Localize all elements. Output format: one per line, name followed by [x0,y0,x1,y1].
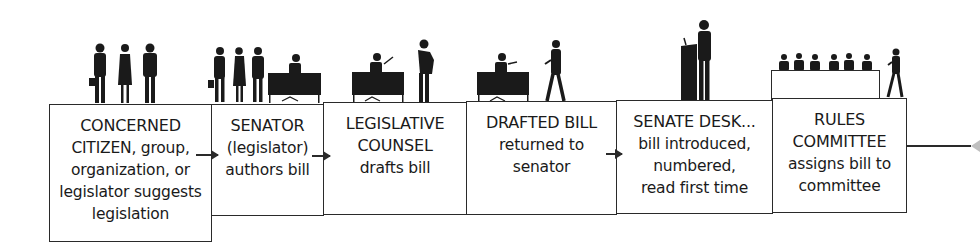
step-text-line: CITIZEN, group, [50,137,211,159]
step-text-line: COMMITTEE [773,131,906,153]
step-text-line: RULES [773,109,906,131]
step-senator: SENATOR (legislator) authors bill [211,104,324,216]
step-legislative-counsel: LEGISLATIVE COUNSEL drafts bill [323,102,467,215]
step-senate-desk: SENATE DESK... bill introduced, numbered… [616,100,773,214]
step-text-line: authors bill [212,159,323,181]
people-and-seated-senator-icon [208,47,321,103]
step-rules-committee: RULES COMMITTEE assigns bill to committe… [772,98,907,213]
step-text-line: legislator suggests [50,181,211,203]
step-text-line: SENATE DESK... [617,111,772,133]
arrow-drafted-to-senate-desk [606,153,622,155]
arrowhead-icon [971,140,980,152]
arrow-citizen-to-senator [196,154,218,156]
step-text-line: assigns bill to [773,153,906,175]
step-text-line: DRAFTED BILL [467,112,616,134]
desk-and-standing-person-icon [352,40,434,104]
speaker-at-podium-icon [681,20,711,100]
step-text-line: committee [773,175,906,197]
step-concerned-citizen: CONCERNED CITIZEN, group, organization, … [49,104,212,242]
step-text-line: read first time [617,177,772,199]
step-text-line: numbered, [617,155,772,177]
arrow-senator-to-counsel [312,155,330,157]
desk-and-walking-person-icon [477,40,564,103]
step-text-line: senator [467,156,616,178]
committee-dais [771,70,880,100]
step-text-line: (legislator) [212,137,323,159]
step-text-line: CONCERNED [50,115,211,137]
step-text-line: legislation [50,203,211,225]
three-people-standing-icon [89,44,157,104]
step-text-line: LEGISLATIVE [324,113,466,135]
connector-to-next-step [906,145,971,147]
step-text-line: SENATOR [212,115,323,137]
step-text-line: drafts bill [324,157,466,179]
step-text-line: COUNSEL [324,135,466,157]
step-text-line: organization, or [50,159,211,181]
legislative-process-diagram: CONCERNED CITIZEN, group, organization, … [0,0,980,242]
step-drafted-bill: DRAFTED BILL returned to senator [466,101,617,215]
step-text-line: bill introduced, [617,133,772,155]
step-text-line: returned to [467,134,616,156]
